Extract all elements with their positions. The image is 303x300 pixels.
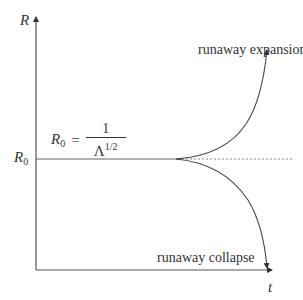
r0-tick-subscript: 0	[23, 156, 28, 167]
formula-equals: =	[71, 132, 79, 149]
expansion-curve	[176, 50, 267, 159]
expansion-label: runaway expansion	[198, 43, 303, 57]
formula-lhs: R0	[51, 131, 65, 149]
formula-denominator-base: Λ	[94, 143, 105, 159]
y-axis-label: R	[20, 13, 29, 28]
formula-denominator: Λ1/2	[94, 138, 118, 160]
collapse-label: runaway collapse	[157, 251, 255, 265]
formula-lhs-base: R	[51, 131, 60, 147]
r0-tick-base: R	[14, 149, 23, 165]
formula-lhs-subscript: 0	[60, 138, 65, 149]
r0-formula: R0 = 1 Λ1/2	[51, 120, 126, 160]
r0-tick-label: R0	[14, 150, 28, 167]
formula-numerator: 1	[86, 121, 126, 138]
formula-denominator-exponent: 1/2	[105, 141, 118, 152]
formula-fraction: 1 Λ1/2	[86, 121, 126, 160]
x-axis-label: t	[268, 280, 272, 295]
